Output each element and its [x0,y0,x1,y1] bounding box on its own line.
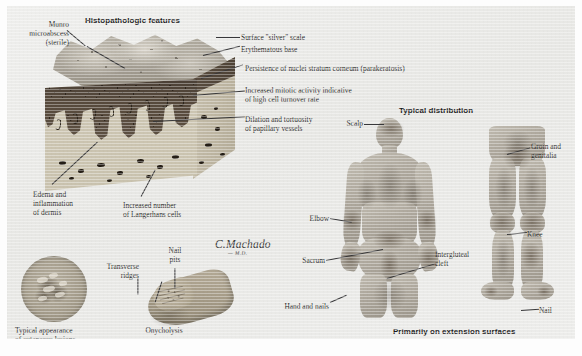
label-sacrum: Sacrum [283,256,325,265]
histopathology-block-illustration [45,31,235,194]
leader-transverse-ridges [138,278,139,294]
posterior-body-figure [333,118,445,316]
label-groin-and-genitalia: Groin and genitalia [531,142,575,160]
label-elbow: Elbow [293,214,329,223]
heading-extension-surfaces: Primarily on extension surfaces [393,327,515,336]
label-onycholysis: Onycholysis [129,326,199,335]
label-transverse-ridges: Transverse ridges [95,262,139,280]
label-erythematous-base: Erythematous base [241,45,361,54]
block-front-face [45,79,197,191]
label-hand-and-nails: Hand and nails [253,302,329,311]
label-knee: Knee [527,230,557,239]
legs-right-foot [521,282,554,300]
signature-credential: — M.D. [228,250,271,256]
illustration-panel: Histopathologic features Munro microabsc… [7,6,575,339]
figure-right-thigh [391,274,418,318]
heading-histopathologic-features: Histopathologic features [85,16,180,25]
figure-left-thigh [360,274,387,318]
label-parakeratosis: Persistence of nuclei stratum corneum (p… [245,64,575,73]
label-increased-mitotic-activity: Increased mitotic activity indicative of… [245,86,435,104]
label-plaque-lesion: Typical appearance of cutaneous lesions … [15,326,111,339]
heading-typical-distribution: Typical distribution [399,106,473,115]
label-munro-microabscess: Munro microabscess (sterile) [7,20,69,48]
leader-silver-scale [216,37,240,38]
label-scalp: Scalp [327,119,363,128]
label-langerhans-cells: Increased number of Langerhans cells [123,201,223,219]
leader-nail-pits [175,268,176,288]
artist-signature: C.Machado — M.D. [215,234,271,256]
epidermis-rete-ridges [45,79,197,157]
legs-right-thigh [519,158,546,218]
plaque-lesion-inset [21,256,87,322]
label-nail-pits: Nail pits [155,246,195,264]
leader-scalp [364,124,384,125]
label-edema-inflammation: Edema and inflammation of dermis [33,190,113,218]
legs-left-foot [481,282,514,300]
legs-left-calf [492,230,514,288]
signature-name: C.Machado [215,238,271,250]
nail-illustration [147,262,233,334]
illustration-plate: Histopathologic features Munro microabsc… [0,0,582,356]
label-intergluteal-cleft: Intergluteal cleft [435,250,493,268]
legs-left-thigh [489,158,516,218]
figure-left-arm [342,162,365,249]
label-surface-silver-scale: Surface "silver" scale [241,33,361,42]
figure-right-arm [414,162,437,249]
label-nail: Nail [539,306,569,315]
